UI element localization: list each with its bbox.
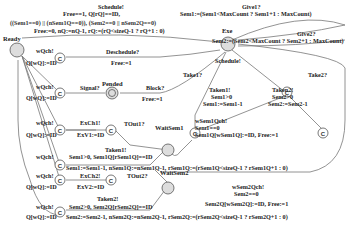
edge-schedule-update: Free:=0, nQ:=nQ-1, rQ:=(rQ<sizeQ-1 ? rQ+… xyxy=(34,27,165,34)
edge-wsem1-sync: wSem1Qch! xyxy=(195,117,227,124)
edge-taken2r-update: Sem2:=Sem2-1 xyxy=(268,100,308,107)
edge-deschedule-update: Free:=1 xyxy=(111,59,132,66)
label-ready: Ready xyxy=(3,35,21,42)
edge-take2-sync: Take2? xyxy=(308,71,327,78)
label-wait-sem1: WaitSem1 xyxy=(155,124,184,131)
edge-schedule-sync: Schedule! xyxy=(98,3,124,10)
edge-taken1-guard: Sem1>0, Sem1Q[rSem1Q]==ID xyxy=(69,153,152,160)
edge-taken2-guard: Sem2>0, Sem2Q[rSem2Q]==ID xyxy=(69,203,152,210)
edge-wsem2-guard: Sem2==0 xyxy=(234,190,259,197)
svg-text:C: C xyxy=(58,91,63,97)
edge-block-sync: Block? xyxy=(146,84,164,91)
edge-taken1-sync: Taken1! xyxy=(105,146,126,153)
edge-schedule-guard1: Free==1, Q[rQ]==ID, xyxy=(63,10,120,17)
edge-wqch1-update: Q[wQ]:=ID xyxy=(26,59,57,66)
edge-taken1r-update: Sem1:=Sem1-1 xyxy=(203,100,243,107)
edge-give2-sync: Give2? xyxy=(297,30,316,37)
edge-block-update: Free:=1 xyxy=(142,95,163,102)
edge-wsem1-update: Sem1Q[wSem1Q]:=ID, Free:=1 xyxy=(195,131,278,138)
location-wait-sem1 xyxy=(162,144,174,156)
svg-text:C: C xyxy=(109,178,114,184)
edge-give1-sync: Give1? xyxy=(242,3,261,10)
label-exe: Exe xyxy=(222,27,232,34)
svg-text:C: C xyxy=(58,56,63,62)
svg-text:C: C xyxy=(58,163,63,169)
edge-taken1-update: Sem1:=Sem1-1, nSem1Q:=nSem1Q-1, rSem1Q:=… xyxy=(66,164,288,171)
edge-exch1-update: ExV1:=ID xyxy=(77,131,104,138)
svg-text:C: C xyxy=(109,128,114,134)
edge-taken2r-guard: Sem2>0 xyxy=(272,93,293,100)
edge-wqch1-sync: wQch! xyxy=(36,47,54,54)
edge-give2-update: Sem2:=(Sem2<MaxCount ? Sem2+1 : MaxCount… xyxy=(212,37,344,44)
edge-wqch2-update: Q[wQ]:=ID xyxy=(26,94,57,101)
svg-text:C: C xyxy=(58,178,63,184)
edge-taken2r-sync: Taken2! xyxy=(272,86,293,93)
edge-wqch5-update: Q[wQ]:=ID xyxy=(26,183,57,190)
svg-text:C: C xyxy=(58,128,63,134)
edge-schedule-guard2: ((Sem1==0) || (nSem1Q==0)), (Sem2==0 || … xyxy=(10,19,156,26)
edge-exch2-update: ExV2:=ID xyxy=(77,183,104,190)
edge-wsem2-update: Sem2Q[wSem2Q]:=ID, Free:=1 xyxy=(205,200,288,207)
edge-signal-sync: Signal? xyxy=(80,84,100,91)
edge-wqch2-sync: wQch! xyxy=(36,83,54,90)
svg-text:C: C xyxy=(58,210,63,216)
edge-give1-update: Sem1:=(Sem1<MaxCount ? Sem1+1 : MaxCount… xyxy=(180,10,312,17)
edge-take1-sync: Take1? xyxy=(183,71,202,78)
label-pended: Pended xyxy=(102,80,123,87)
edge-exch2-sync: ExCh2! xyxy=(80,172,100,179)
edge-deschedule-sync: Deschedule? xyxy=(106,48,139,55)
edge-wsem2-sync: wSem2Qch! xyxy=(232,183,264,190)
edge-wqch6-sync: wQch! xyxy=(36,203,54,210)
edge-taken2-sync: Taken2! xyxy=(97,195,118,202)
edge-taken1r-guard: Sem1>0 xyxy=(211,93,232,100)
location-wait-sem2 xyxy=(162,182,174,194)
edge-schedule-mid-sync: Schedule! xyxy=(215,57,241,64)
edge-taken2-update: Sem2:=Sem2-1, nSem2Q:=nSem2Q-1, rSem2Q:=… xyxy=(66,213,288,220)
edge-tout1-sync: TOut1? xyxy=(124,120,145,127)
edge-tout2-sync: TOut2? xyxy=(127,172,148,179)
location-ready xyxy=(10,43,24,57)
edge-wqch5-sync: wQch! xyxy=(36,172,54,179)
edge-taken1r-sync: Taken1! xyxy=(209,86,230,93)
edge-exch1-sync: ExCh1! xyxy=(80,119,100,126)
svg-text:C: C xyxy=(321,131,326,137)
edge-wqch4-sync: wQch! xyxy=(36,153,54,160)
edge-wqch3-update: Q[wQ]:=ID xyxy=(26,131,57,138)
edge-wsem1-guard: Sem1==0 xyxy=(195,124,220,131)
edge-wqch3-sync: wQch! xyxy=(36,119,54,126)
edge-wqch6-update: Q[wQ]:=ID xyxy=(26,213,57,220)
